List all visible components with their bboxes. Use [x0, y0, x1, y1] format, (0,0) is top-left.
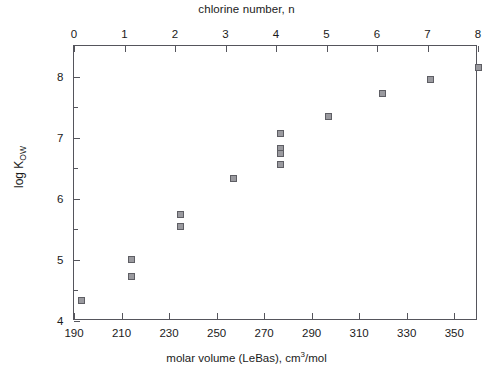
- data-point: [325, 113, 332, 120]
- data-point: [128, 273, 135, 280]
- data-point: [427, 76, 434, 83]
- x-axis-tick: [122, 313, 123, 319]
- top-axis-tick: [74, 46, 75, 52]
- data-point: [177, 223, 184, 230]
- x-axis-tick: [407, 313, 408, 319]
- data-point: [277, 150, 284, 157]
- x-axis-tick: [264, 313, 265, 319]
- data-point: [177, 211, 184, 218]
- x-axis-tick-label: 330: [397, 327, 416, 339]
- x-axis-tick-label: 250: [207, 327, 226, 339]
- data-point: [277, 130, 284, 137]
- top-axis-tick-label: 7: [424, 28, 430, 40]
- top-axis-tick-label: 6: [374, 28, 380, 40]
- y-axis-minor-tick: [74, 107, 78, 108]
- data-point: [277, 161, 284, 168]
- top-axis-tick-label: 1: [121, 28, 127, 40]
- y-axis-tick-label: 4: [57, 315, 63, 327]
- x-axis-tick: [454, 313, 455, 319]
- x-axis-tick-label: 210: [112, 327, 131, 339]
- y-axis-tick: [74, 77, 80, 78]
- top-axis-tick-label: 4: [273, 28, 279, 40]
- x-axis-tick: [74, 313, 75, 319]
- x-axis-tick-label: 190: [64, 327, 83, 339]
- x-axis-tick: [359, 313, 360, 319]
- y-axis-tick: [74, 260, 80, 261]
- y-axis-tick-label: 8: [57, 71, 63, 83]
- top-axis-tick: [175, 46, 176, 52]
- top-axis-tick: [276, 46, 277, 52]
- x-axis-tick-label: 310: [350, 327, 369, 339]
- x-axis-tick: [169, 313, 170, 319]
- y-axis-tick: [74, 321, 80, 322]
- top-axis-tick: [327, 46, 328, 52]
- top-axis-tick-label: 3: [222, 28, 228, 40]
- y-axis-label-main: log K: [12, 161, 26, 188]
- top-axis-tick-label: 2: [172, 28, 178, 40]
- top-axis-tick-label: 5: [323, 28, 329, 40]
- data-point: [230, 175, 237, 182]
- y-axis-label-sub: OW: [18, 146, 28, 161]
- x-axis-tick: [217, 313, 218, 319]
- y-axis-tick-label: 5: [57, 254, 63, 266]
- y-axis-label: log KOW: [12, 117, 26, 217]
- y-axis-tick-label: 6: [57, 193, 63, 205]
- x-axis-tick-label: 270: [255, 327, 274, 339]
- data-point: [78, 297, 85, 304]
- x-axis-tick: [312, 313, 313, 319]
- plot-area: 012345678 190210230250270290310330350 45…: [73, 45, 477, 320]
- x-axis-label-main: molar volume (LeBas), cm: [166, 352, 300, 364]
- top-axis-tick: [226, 46, 227, 52]
- top-axis-tick: [478, 46, 479, 52]
- y-axis-tick-label: 7: [57, 132, 63, 144]
- top-axis-tick: [377, 46, 378, 52]
- data-point: [475, 64, 482, 71]
- x-axis-tick-label: 350: [445, 327, 464, 339]
- data-point: [128, 256, 135, 263]
- x-axis-tick-label: 290: [302, 327, 321, 339]
- top-axis-tick: [125, 46, 126, 52]
- y-axis-minor-tick: [74, 168, 78, 169]
- top-axis-tick-label: 8: [475, 28, 481, 40]
- y-axis-tick: [74, 199, 80, 200]
- x-axis-label-tail: /mol: [305, 352, 327, 364]
- top-axis-title: chlorine number, n: [0, 3, 493, 15]
- scatter-chart-figure: chlorine number, n log KOW molar volume …: [0, 0, 493, 377]
- top-axis-tick: [428, 46, 429, 52]
- data-point: [379, 90, 386, 97]
- top-axis-tick-label: 0: [71, 28, 77, 40]
- x-axis-tick-label: 230: [159, 327, 178, 339]
- x-axis-label: molar volume (LeBas), cm3/mol: [0, 352, 493, 364]
- y-axis-tick: [74, 138, 80, 139]
- y-axis-minor-tick: [74, 290, 78, 291]
- y-axis-minor-tick: [74, 229, 78, 230]
